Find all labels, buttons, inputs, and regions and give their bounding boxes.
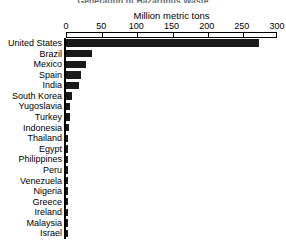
bar-row: Brazil (0, 49, 286, 60)
category-label: Spain (39, 70, 62, 81)
category-label: Egypt (39, 144, 62, 155)
bar (66, 61, 86, 68)
x-tick-label: 250 (229, 21, 255, 32)
chart-title: Generation of Hazardous Waste (0, 0, 286, 3)
bar (66, 145, 68, 152)
bar-row: Israel (0, 228, 286, 239)
bar (66, 198, 68, 205)
x-tick-mark (173, 33, 174, 37)
bar-row: United States (0, 38, 286, 49)
category-label: Philippines (18, 154, 62, 165)
x-axis-tick-labels: 050100150200250300 (0, 21, 286, 32)
bar-row: Nigeria (0, 186, 286, 197)
category-label: Yugoslavia (18, 101, 62, 112)
bar (66, 166, 68, 173)
bar-row: India (0, 80, 286, 91)
bar (66, 187, 68, 194)
bar-row: Philippines (0, 154, 286, 165)
bar (66, 92, 72, 99)
bar-row: Indonesia (0, 123, 286, 134)
category-label: Brazil (39, 49, 62, 60)
x-tick-label: 0 (53, 21, 79, 32)
bar (66, 135, 68, 142)
x-axis-title: Million metric tons (66, 10, 277, 21)
bar (66, 113, 70, 120)
x-tick-label: 200 (194, 21, 220, 32)
category-label: India (42, 80, 62, 91)
bar (66, 230, 68, 237)
bar-row: Mexico (0, 59, 286, 70)
category-label: United States (8, 38, 62, 49)
bar-row: Venezuela (0, 176, 286, 187)
category-label: Indonesia (23, 123, 62, 134)
bar-row: Thailand (0, 133, 286, 144)
x-tick-mark (208, 33, 209, 37)
bar (66, 209, 68, 216)
bar (66, 50, 92, 57)
bar (66, 156, 68, 163)
bar (66, 103, 70, 110)
bar (66, 124, 69, 131)
bar-row: Yugoslavia (0, 101, 286, 112)
bar-rows: United StatesBrazilMexicoSpainIndiaSouth… (0, 38, 286, 239)
category-label: Turkey (35, 112, 62, 123)
x-tick-mark (137, 33, 138, 37)
category-label: Ireland (34, 207, 62, 218)
category-label: Nigeria (33, 186, 62, 197)
x-tick-label: 100 (123, 21, 149, 32)
category-label: South Korea (12, 91, 62, 102)
category-label: Peru (43, 165, 62, 176)
x-tick-mark (243, 33, 244, 37)
x-tick-mark (102, 33, 103, 37)
bar-row: Turkey (0, 112, 286, 123)
bar-chart: Generation of Hazardous Waste Million me… (0, 0, 286, 242)
bar-row: Malaysia (0, 218, 286, 229)
category-label: Venezuela (20, 176, 62, 187)
x-tick-label: 50 (88, 21, 114, 32)
bar-row: Ireland (0, 207, 286, 218)
category-label: Thailand (27, 133, 62, 144)
bar-row: Peru (0, 165, 286, 176)
bar-row: Greece (0, 197, 286, 208)
bar (66, 39, 259, 46)
bar-row: Spain (0, 70, 286, 81)
category-label: Israel (40, 228, 62, 239)
bar-row: Egypt (0, 144, 286, 155)
x-tick-label: 150 (159, 21, 185, 32)
category-label: Greece (32, 197, 62, 208)
category-label: Mexico (33, 59, 62, 70)
x-tick-label: 300 (264, 21, 286, 32)
bar (66, 82, 79, 89)
bar (66, 177, 68, 184)
bar-row: South Korea (0, 91, 286, 102)
category-label: Malaysia (26, 218, 62, 229)
bar (66, 219, 68, 226)
bar (66, 71, 81, 78)
